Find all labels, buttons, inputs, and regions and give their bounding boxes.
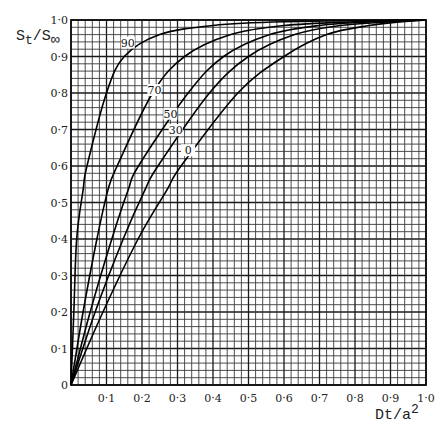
curve-label-70: 70 — [147, 84, 161, 97]
curve-label-90: 90 — [121, 37, 135, 50]
y-tick-label: 0·1 — [51, 343, 69, 356]
x-tick-label: 0·6 — [275, 392, 293, 405]
y-axis-label: St/S∞ — [16, 28, 60, 49]
y-tick-label: 0·2 — [51, 306, 69, 319]
y-tick-label: 0 — [61, 379, 68, 392]
y-label-infinity: ∞ — [51, 32, 60, 49]
x-tick-label: 0·7 — [311, 392, 329, 405]
x-axis-label: Dt/a2 — [375, 402, 419, 424]
x-tick-label: 0·5 — [240, 392, 258, 405]
y-tick-label: 0·5 — [51, 197, 69, 210]
y-tick-label: 0·7 — [51, 124, 69, 137]
x-tick-label: 0·8 — [346, 392, 364, 405]
curve-labels: 907050300 — [121, 37, 195, 158]
x-label-sup: 2 — [411, 402, 419, 417]
x-tick-label: 0·1 — [98, 392, 116, 405]
y-tick-label: 0·6 — [51, 160, 69, 173]
y-tick-label: 1·0 — [51, 14, 69, 27]
y-tick-label: 0·3 — [51, 270, 69, 283]
chart-canvas: 0·10·20·30·40·50·60·70·80·91·000·10·20·3… — [0, 0, 444, 433]
x-tick-label: 0·2 — [133, 392, 151, 405]
curve-label-50: 50 — [163, 108, 177, 121]
y-tick-label: 0·8 — [51, 87, 69, 100]
y-label-sub: t — [25, 33, 33, 48]
y-tick-label: 0·9 — [51, 51, 69, 64]
curve-label-0: 0 — [185, 144, 192, 157]
x-tick-label: 0·4 — [204, 392, 222, 405]
curve-label-30: 30 — [169, 124, 183, 137]
y-tick-label: 0·4 — [51, 233, 69, 246]
y-label-s: S — [16, 28, 25, 45]
x-tick-label: 0·3 — [169, 392, 187, 405]
x-tick-label: 1·0 — [417, 392, 435, 405]
y-label-slash: /S — [33, 28, 51, 45]
x-label-main: Dt/a — [375, 407, 411, 424]
